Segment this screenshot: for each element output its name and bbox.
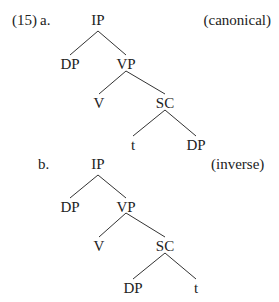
tree-a-label: a. <box>40 13 50 28</box>
tree-b-label: b. <box>38 157 49 172</box>
node-vp: VP <box>116 57 135 72</box>
tree-branches <box>0 0 279 302</box>
node-v: V <box>94 239 105 254</box>
node-dp-subject: DP <box>123 281 142 296</box>
node-trace: t <box>131 138 135 153</box>
node-vp: VP <box>116 200 135 215</box>
node-dp-object: DP <box>186 138 205 153</box>
node-trace: t <box>194 281 198 296</box>
tree-a-annotation: (canonical) <box>204 13 271 28</box>
example-number: (15) <box>12 13 37 28</box>
node-dp: DP <box>60 200 79 215</box>
node-ip: IP <box>91 13 104 28</box>
tree-b-annotation: (inverse) <box>211 157 264 172</box>
node-ip: IP <box>91 157 104 172</box>
node-dp: DP <box>60 57 79 72</box>
node-sc: SC <box>156 96 174 111</box>
node-sc: SC <box>156 239 174 254</box>
node-v: V <box>94 96 105 111</box>
